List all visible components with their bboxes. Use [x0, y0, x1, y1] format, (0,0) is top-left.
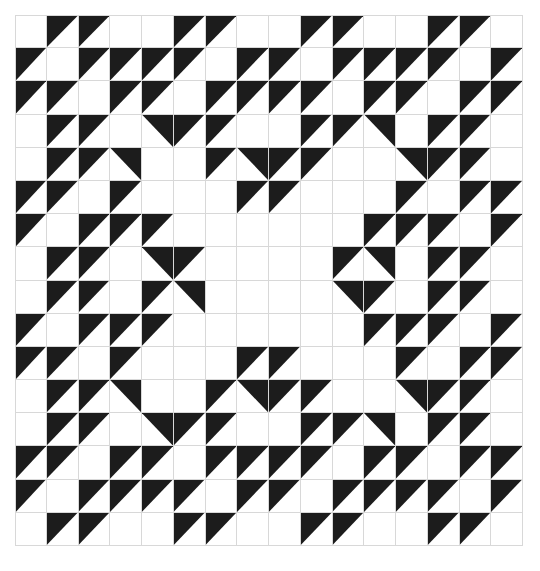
- quilt-cell: [460, 48, 492, 81]
- quilt-cell: [110, 314, 142, 347]
- quilt-cell: [301, 413, 333, 446]
- quilt-cell: [491, 214, 523, 247]
- quilt-cell: [333, 15, 365, 48]
- quilt-cell: [269, 115, 301, 148]
- quilt-cell: [79, 513, 111, 546]
- quilt-cell: [142, 247, 174, 280]
- triangle-tl: [206, 413, 238, 446]
- quilt-cell: [174, 214, 206, 247]
- quilt-cell: [301, 148, 333, 181]
- quilt-cell: [396, 214, 428, 247]
- quilt-cell: [237, 81, 269, 114]
- triangle-tl: [396, 480, 428, 513]
- triangle-tl: [428, 513, 460, 546]
- triangle-tl: [47, 446, 79, 479]
- triangle-tl: [364, 446, 396, 479]
- quilt-cell: [206, 480, 238, 513]
- quilt-cell: [15, 214, 47, 247]
- quilt-cell: [460, 15, 492, 48]
- quilt-cell: [110, 148, 142, 181]
- quilt-cell: [79, 314, 111, 347]
- triangle-tl: [428, 314, 460, 347]
- triangle-tl: [491, 480, 523, 513]
- quilt-cell: [174, 480, 206, 513]
- triangle-tl: [460, 181, 492, 214]
- triangle-tl: [15, 181, 47, 214]
- quilt-cell: [333, 48, 365, 81]
- triangle-tl: [269, 48, 301, 81]
- quilt-cell: [364, 15, 396, 48]
- triangle-tr: [142, 115, 174, 148]
- quilt-cell: [460, 81, 492, 114]
- triangle-tl: [333, 247, 365, 280]
- quilt-cell: [206, 81, 238, 114]
- quilt-cell: [269, 148, 301, 181]
- triangle-tl: [301, 413, 333, 446]
- quilt-cell: [364, 380, 396, 413]
- triangle-tr: [142, 413, 174, 446]
- quilt-cell: [237, 314, 269, 347]
- triangle-tl: [460, 446, 492, 479]
- quilt-cell: [491, 480, 523, 513]
- quilt-cell: [333, 347, 365, 380]
- triangle-tl: [142, 48, 174, 81]
- quilt-cell: [174, 347, 206, 380]
- quilt-cell: [301, 281, 333, 314]
- quilt-cell: [364, 314, 396, 347]
- triangle-tl: [79, 413, 111, 446]
- triangle-tl: [428, 281, 460, 314]
- quilt-cell: [364, 281, 396, 314]
- quilt-cell: [491, 15, 523, 48]
- triangle-tl: [396, 81, 428, 114]
- quilt-cell: [142, 181, 174, 214]
- quilt-cell: [428, 81, 460, 114]
- triangle-tl: [269, 181, 301, 214]
- quilt-cell: [269, 446, 301, 479]
- quilt-cell: [333, 480, 365, 513]
- quilt-cell: [110, 513, 142, 546]
- quilt-cell: [206, 48, 238, 81]
- triangle-tl: [174, 513, 206, 546]
- triangle-tl: [47, 181, 79, 214]
- quilt-cell: [491, 347, 523, 380]
- triangle-tl: [79, 281, 111, 314]
- quilt-cell: [206, 115, 238, 148]
- quilt-cell: [396, 380, 428, 413]
- quilt-cell: [396, 48, 428, 81]
- quilt-cell: [47, 48, 79, 81]
- quilt-cell: [206, 247, 238, 280]
- triangle-tl: [110, 81, 142, 114]
- triangle-tl: [396, 181, 428, 214]
- triangle-tr: [237, 380, 269, 413]
- quilt-cell: [364, 214, 396, 247]
- quilt-cell: [396, 115, 428, 148]
- quilt-cell: [15, 413, 47, 446]
- quilt-cell: [15, 380, 47, 413]
- quilt-cell: [15, 15, 47, 48]
- triangle-tl: [47, 281, 79, 314]
- quilt-cell: [142, 81, 174, 114]
- quilt-cell: [79, 380, 111, 413]
- quilt-cell: [206, 446, 238, 479]
- quilt-cell: [47, 380, 79, 413]
- triangle-tl: [428, 214, 460, 247]
- quilt-cell: [174, 314, 206, 347]
- triangle-tl: [15, 314, 47, 347]
- quilt-cell: [491, 48, 523, 81]
- quilt-cell: [428, 148, 460, 181]
- quilt-cell: [47, 15, 79, 48]
- triangle-tr: [174, 281, 206, 314]
- quilt-cell: [269, 314, 301, 347]
- triangle-tl: [237, 347, 269, 380]
- triangle-tl: [79, 247, 111, 280]
- quilt-cell: [142, 347, 174, 380]
- quilt-cell: [237, 480, 269, 513]
- quilt-cell: [428, 247, 460, 280]
- triangle-tl: [491, 446, 523, 479]
- triangle-tl: [79, 214, 111, 247]
- triangle-tl: [79, 314, 111, 347]
- quilt-cell: [364, 480, 396, 513]
- quilt-cell: [428, 115, 460, 148]
- quilt-cell: [301, 347, 333, 380]
- quilt-cell: [428, 181, 460, 214]
